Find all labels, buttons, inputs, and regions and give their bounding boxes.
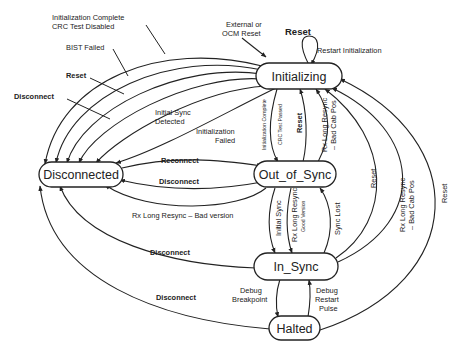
edge-external-reset (242, 38, 266, 57)
label-good-version: Good Version (300, 200, 306, 232)
label-detected: Detected (155, 117, 185, 126)
label-reset-halted-init: Reset (440, 184, 449, 203)
label-initialization: Initialization (196, 127, 235, 136)
label-sync-lost: Sync Lost (333, 203, 342, 235)
pointer-bist-failed (113, 49, 128, 76)
pointer-disconnect (67, 99, 110, 119)
label-disconnect-oos: Disconnect (159, 177, 199, 186)
label-disconnect-top-left: Disconnect (14, 92, 54, 101)
label-debug-1: Debug (240, 286, 262, 295)
state-halted-label: Halted (276, 322, 312, 336)
label-external-or: External or (226, 20, 262, 29)
pointer-crc-disabled (146, 25, 165, 54)
label-breakpoint: Breakpoint (232, 295, 267, 304)
label-bist-failed: BIST Failed (66, 43, 104, 52)
state-diagram: Initializing Disconnected Out_of_Sync In… (0, 0, 464, 352)
state-halted[interactable]: Halted (269, 316, 320, 340)
state-in-sync-label: In_Sync (273, 260, 318, 274)
label-initial-sync: Initial Sync (155, 108, 191, 117)
label-disconnect-halted: Disconnect (156, 293, 196, 302)
label-reset-self-loop: Reset (285, 26, 312, 37)
edge-halted-to-disc (40, 186, 270, 329)
label-rx-long-resync-2: Rx Long Resync (398, 177, 407, 232)
state-out-of-sync-label: Out_of_Sync (259, 168, 331, 182)
label-reset-top-left: Reset (66, 71, 87, 80)
state-out-of-sync[interactable]: Out_of_Sync (254, 161, 336, 187)
label-ocm-reset: OCM Reset (222, 29, 261, 38)
label-disconnect-insync: Disconnect (150, 248, 190, 257)
label-init-complete-crc-passed: Initialization Complete (261, 99, 267, 150)
label-rx-long-resync-bad-version: Rx Long Resync – Bad version (132, 211, 233, 220)
label-reset-insync-init: Reset (369, 169, 378, 188)
label-bad-cab-pos-1: – Bad Cab Pos (329, 100, 338, 150)
edge-init-to-disc-init-failed (116, 88, 276, 163)
label-bad-cab-pos-2: – Bad Cab Pos (407, 180, 416, 230)
label-init-complete-crc-disabled: Initialization Complete (52, 13, 124, 22)
edge-insync-to-oos-sync-lost (320, 188, 330, 253)
label-reconnect: Reconnect (161, 156, 199, 165)
state-in-sync[interactable]: In_Sync (254, 253, 338, 280)
edge-init-self-loop (302, 36, 317, 65)
label-restart-initialization: Restart Initialization (317, 46, 382, 55)
state-initializing-label: Initializing (272, 70, 327, 84)
edge-halted-to-insync-restart (308, 280, 310, 317)
label-pulse: Pulse (319, 304, 338, 313)
edge-insync-to-halted-breakpoint (276, 279, 280, 317)
state-disconnected[interactable]: Disconnected (39, 162, 123, 187)
state-disconnected-label: Disconnected (43, 168, 119, 182)
label-failed: Failed (215, 136, 235, 145)
label-debug-2: Debug (316, 286, 338, 295)
label-initial-sync-oos-insync: Initial Sync (274, 200, 283, 236)
edge-insync-to-init-bad-cab-pos (332, 88, 403, 262)
state-initializing[interactable]: Initializing (256, 63, 342, 89)
label-crc-test-disabled: CRC Test Disabled (52, 22, 114, 31)
label-rx-long-resync-good: Rx Long Resync (290, 187, 299, 242)
label-restart: Restart (315, 295, 339, 304)
label-rx-long-resync-1: Rx Long Resync (320, 97, 329, 152)
label-crc-test-passed: CRC Test Passed (277, 104, 283, 145)
label-reset-oos-init: Reset (295, 112, 304, 133)
